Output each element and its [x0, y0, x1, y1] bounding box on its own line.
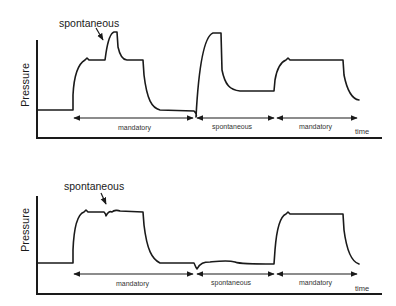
top-segment-1-label: mandatory: [118, 124, 152, 132]
top-segment-2-label: spontaneous: [212, 123, 253, 131]
bottom-segment-2-label: spontaneous: [211, 279, 252, 287]
bottom-annotation-arrow-icon: [101, 193, 106, 204]
bottom-pressure-waveform: [37, 210, 359, 269]
top-x-axis-label: time: [355, 127, 369, 136]
top-y-axis-label: Pressure: [19, 63, 31, 107]
top-spontaneous-annotation: spontaneous: [59, 17, 119, 29]
pressure-time-diagram: Pressure time spontaneous mandatory spon…: [0, 0, 396, 306]
top-segment-3-label: mandatory: [299, 123, 333, 131]
bottom-segment-3-label: mandatory: [299, 279, 333, 287]
top-annotation-arrow-icon: [96, 28, 103, 40]
bottom-segment-1-label: mandatory: [116, 280, 150, 288]
bottom-panel: Pressure time spontaneous mandatory spon…: [19, 180, 382, 294]
bottom-x-axis-label: time: [355, 284, 369, 293]
bottom-spontaneous-annotation: spontaneous: [64, 180, 124, 192]
bottom-y-axis-label: Pressure: [19, 208, 31, 252]
top-panel: Pressure time spontaneous mandatory spon…: [19, 17, 382, 138]
top-pressure-waveform: [37, 32, 359, 117]
